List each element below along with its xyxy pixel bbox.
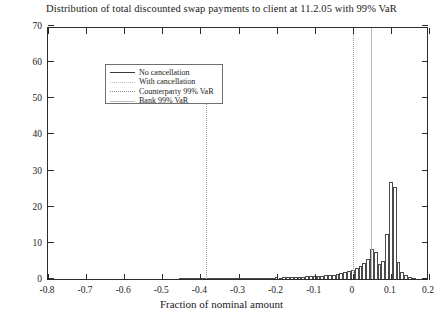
legend-label: With cancellation	[139, 78, 195, 86]
x-axis-title: Fraction of nominal amount	[0, 298, 443, 310]
x-axis-tick	[124, 28, 125, 34]
legend-item: With cancellation	[110, 78, 218, 87]
y-tick-label: 10	[8, 239, 42, 249]
legend-item: No cancellation	[110, 68, 218, 77]
y-tick-label: 0	[8, 275, 42, 285]
x-tick-label: -0.7	[65, 286, 105, 296]
legend-item: Counterparty 99% VaR	[110, 87, 218, 96]
legend-swatch-bank-var	[110, 101, 135, 102]
legend-swatch-counterparty-var	[110, 91, 135, 92]
x-axis-tick	[200, 274, 201, 280]
y-axis-tick	[422, 242, 428, 243]
x-tick-label: 0.2	[408, 286, 443, 296]
y-axis-tick	[422, 25, 428, 26]
y-axis-tick	[48, 133, 54, 134]
y-axis-tick	[48, 206, 54, 207]
with-cancellation-line	[353, 28, 354, 279]
x-tick-label: -0.6	[103, 286, 143, 296]
legend-label: Counterparty 99% VaR	[139, 88, 214, 96]
y-axis-tick	[422, 133, 428, 134]
plot-frame: No cancellation With cancellation Counte…	[47, 27, 428, 280]
x-axis-tick	[277, 28, 278, 34]
legend-swatch-no-cancellation	[110, 72, 135, 73]
y-tick-label: 50	[8, 94, 42, 104]
y-axis-tick	[48, 61, 54, 62]
x-tick-label: -0.1	[294, 286, 334, 296]
x-axis-tick	[315, 28, 316, 34]
x-axis-tick	[162, 274, 163, 280]
counterparty-var-line	[206, 98, 207, 279]
y-axis-tick	[48, 170, 54, 171]
histogram-bar	[412, 278, 416, 279]
y-axis-tick	[48, 25, 54, 26]
x-axis-tick	[353, 274, 354, 280]
bank-var-line	[371, 28, 372, 279]
x-tick-label: -0.3	[218, 286, 258, 296]
x-axis-tick	[48, 28, 49, 34]
x-axis-tick	[353, 28, 354, 34]
x-axis-tick	[391, 28, 392, 34]
y-axis-tick	[422, 206, 428, 207]
x-tick-label: -0.4	[179, 286, 219, 296]
x-axis-tick	[391, 274, 392, 280]
x-axis-tick	[315, 274, 316, 280]
x-axis-tick	[239, 28, 240, 34]
x-tick-label: -0.5	[141, 286, 181, 296]
legend-item: Bank 99% VaR	[110, 97, 218, 106]
y-axis-tick	[422, 170, 428, 171]
chart-title: Distribution of total discounted swap pa…	[0, 3, 443, 14]
x-axis-tick	[277, 274, 278, 280]
y-tick-label: 20	[8, 203, 42, 213]
x-axis-tick	[200, 28, 201, 34]
x-axis-tick	[162, 28, 163, 34]
y-tick-label: 70	[8, 22, 42, 32]
x-axis-tick	[86, 28, 87, 34]
y-axis-tick	[422, 97, 428, 98]
x-axis-tick	[124, 274, 125, 280]
x-tick-label: 0	[332, 286, 372, 296]
x-axis-tick	[429, 28, 430, 34]
y-tick-label: 30	[8, 167, 42, 177]
legend-label: No cancellation	[139, 69, 189, 77]
y-axis-tick	[422, 61, 428, 62]
x-axis-tick	[48, 274, 49, 280]
legend: No cancellation With cancellation Counte…	[105, 64, 223, 104]
x-axis-tick	[239, 274, 240, 280]
x-tick-label: 0.1	[370, 286, 410, 296]
legend-swatch-with-cancellation	[110, 82, 135, 83]
y-axis-tick	[422, 278, 428, 279]
legend-label: Bank 99% VaR	[139, 97, 188, 105]
x-axis-tick	[86, 274, 87, 280]
y-axis-tick	[48, 97, 54, 98]
figure: Distribution of total discounted swap pa…	[0, 0, 443, 323]
y-tick-label: 40	[8, 130, 42, 140]
y-tick-label: 60	[8, 58, 42, 68]
x-tick-label: -0.2	[256, 286, 296, 296]
y-axis-tick	[48, 242, 54, 243]
x-axis-tick	[429, 274, 430, 280]
x-tick-label: -0.8	[27, 286, 67, 296]
